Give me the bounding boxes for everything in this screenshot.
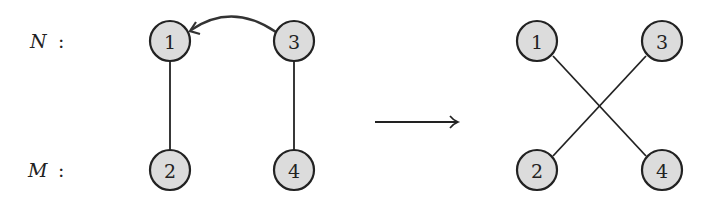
right-node-4: 4: [642, 150, 682, 190]
left-node-2-label: 2: [164, 160, 176, 182]
left-node-4: 4: [274, 150, 314, 190]
left-node-1: 1: [150, 21, 190, 61]
left-node-2: 2: [150, 150, 190, 190]
left-node-1-label: 1: [164, 31, 176, 53]
right-node-1: 1: [517, 21, 557, 61]
right-node-3: 3: [642, 21, 682, 61]
row-label-m-colon: :: [58, 159, 64, 181]
right-node-3-label: 3: [656, 31, 668, 53]
transition-arrow-icon: [375, 116, 458, 128]
left-node-4-label: 4: [288, 160, 300, 182]
right-node-4-label: 4: [656, 160, 668, 182]
left-node-3: 3: [274, 21, 314, 61]
row-label-n: N :: [29, 30, 64, 52]
right-node-2-label: 2: [531, 160, 543, 182]
row-label-m-text: M: [27, 159, 48, 181]
curved-arrow-3-to-1: [191, 16, 276, 32]
right-node-1-label: 1: [531, 31, 543, 53]
right-node-2: 2: [517, 150, 557, 190]
row-label-n-text: N: [29, 30, 48, 52]
left-node-3-label: 3: [288, 31, 300, 53]
row-label-m: M :: [27, 159, 64, 181]
row-label-n-colon: :: [58, 30, 64, 52]
diagram-canvas: N : M : 1 3 2 4 1 3: [0, 0, 718, 206]
